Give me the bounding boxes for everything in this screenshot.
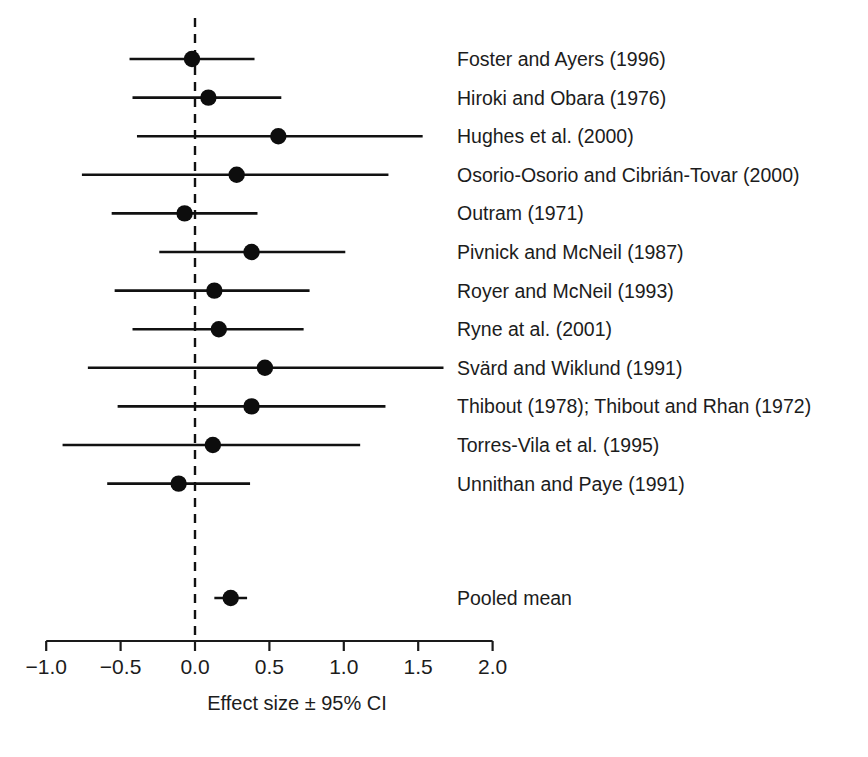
effect-size-marker xyxy=(257,360,273,376)
effect-size-marker xyxy=(176,205,192,221)
study-label: Thibout (1978); Thibout and Rhan (1972) xyxy=(457,395,811,417)
study-label: Svärd and Wiklund (1991) xyxy=(457,357,682,379)
effect-size-marker xyxy=(211,321,227,337)
study-label: Royer and McNeil (1993) xyxy=(457,280,674,302)
x-axis-tick-label: 0.5 xyxy=(255,655,284,678)
study-label: Hughes et al. (2000) xyxy=(457,125,634,147)
x-axis-title-group: Effect size ± 95% CI xyxy=(207,692,387,714)
effect-size-marker xyxy=(206,282,222,298)
plot-background xyxy=(0,0,868,757)
study-label: Pivnick and McNeil (1987) xyxy=(457,241,684,263)
effect-size-marker xyxy=(200,89,216,105)
x-axis-tick-label: −0.5 xyxy=(100,655,141,678)
study-label: Osorio-Osorio and Cibrián-Tovar (2000) xyxy=(457,164,799,186)
effect-size-marker xyxy=(223,590,239,606)
study-label: Hiroki and Obara (1976) xyxy=(457,87,666,109)
pooled-mean-label: Pooled mean xyxy=(457,587,572,609)
effect-size-marker xyxy=(270,128,286,144)
effect-size-marker xyxy=(243,244,259,260)
x-axis-tick-label: 1.5 xyxy=(404,655,433,678)
forest-plot-figure: Foster and Ayers (1996)Hiroki and Obara … xyxy=(0,0,868,757)
forest-plot-canvas: Foster and Ayers (1996)Hiroki and Obara … xyxy=(0,0,868,757)
study-label: Ryne at al. (2001) xyxy=(457,318,612,340)
x-axis-tick-label: −1.0 xyxy=(25,655,66,678)
study-label: Outram (1971) xyxy=(457,202,584,224)
effect-size-marker xyxy=(228,167,244,183)
effect-size-marker xyxy=(243,398,259,414)
effect-size-marker xyxy=(205,437,221,453)
effect-size-marker xyxy=(184,51,200,67)
x-axis-title: Effect size ± 95% CI xyxy=(207,692,387,714)
x-axis-tick-label: 1.0 xyxy=(329,655,358,678)
x-axis-tick-label: 2.0 xyxy=(478,655,507,678)
study-label: Torres-Vila et al. (1995) xyxy=(457,434,659,456)
study-label: Unnithan and Paye (1991) xyxy=(457,473,685,495)
study-label: Foster and Ayers (1996) xyxy=(457,48,666,70)
effect-size-marker xyxy=(170,475,186,491)
x-axis-tick-label: 0.0 xyxy=(180,655,209,678)
